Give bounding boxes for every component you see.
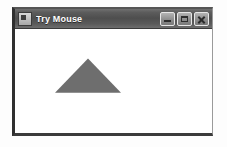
minimize-button[interactable] [160, 12, 175, 26]
maximize-button[interactable] [177, 12, 192, 26]
application-window: Try Mouse [12, 7, 213, 136]
triangle-shape [55, 58, 121, 92]
title-bar[interactable]: Try Mouse [15, 9, 212, 29]
window-title: Try Mouse [36, 9, 160, 29]
screen-root: Try Mouse [0, 0, 227, 147]
close-button[interactable] [194, 12, 209, 26]
close-icon [195, 13, 208, 25]
client-area[interactable] [15, 29, 212, 132]
minimize-icon [161, 13, 174, 25]
maximize-icon [178, 13, 191, 25]
window-controls [160, 12, 210, 26]
drawing-canvas[interactable] [15, 29, 212, 132]
application-icon [18, 12, 32, 26]
